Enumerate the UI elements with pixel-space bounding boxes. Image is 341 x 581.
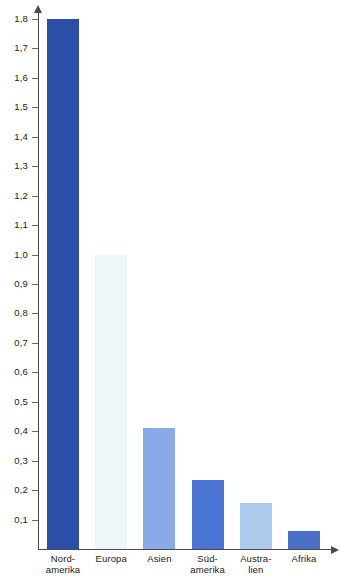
bar-australien [240, 503, 272, 549]
y-axis-line [38, 11, 39, 550]
y-axis-tick-label: 1,4 [0, 132, 28, 142]
x-axis-label-line1: Nord- [51, 553, 75, 564]
y-axis-tick-label: 0,3 [0, 456, 28, 466]
y-axis-tick-label: 1,6 [0, 73, 28, 83]
bar-chart: 1,81,71,61,51,41,31,21,11,00,90,80,70,60… [0, 0, 341, 581]
x-axis-label-line1: Austra- [240, 553, 271, 564]
bar-südamerika [192, 480, 224, 549]
y-axis-tick-label: 0,4 [0, 426, 28, 436]
y-axis-tick-label: 1,0 [0, 250, 28, 260]
y-axis-tick-label: 0,1 [0, 515, 28, 525]
y-axis-tick-label: 0,7 [0, 338, 28, 348]
bar-asien [143, 428, 175, 549]
y-axis-tick-label: 1,8 [0, 14, 28, 24]
x-axis-label-line1: Afrika [292, 553, 317, 564]
x-axis-line [38, 549, 333, 550]
y-axis-tick-label: 0,2 [0, 485, 28, 495]
y-axis-tick-label: 1,2 [0, 191, 28, 201]
x-axis-label-afrika: Afrika [274, 553, 334, 564]
bar-europa [95, 255, 127, 549]
y-axis-tick-label: 0,8 [0, 308, 28, 318]
bar-afrika [288, 531, 320, 549]
y-axis-tick-label: 1,3 [0, 161, 28, 171]
x-axis-label-line2: lien [226, 564, 286, 575]
y-axis-tick-label: 0,6 [0, 367, 28, 377]
x-axis-label-line1: Süd- [197, 553, 217, 564]
x-axis-label-line1: Asien [147, 553, 171, 564]
y-axis-tick-label: 1,7 [0, 43, 28, 53]
x-axis-label-line2: amerika [33, 564, 93, 575]
chart-title [4, 0, 204, 3]
y-axis-tick-label: 0,9 [0, 279, 28, 289]
bar-nordamerika [47, 19, 79, 549]
y-axis-arrow-icon [34, 5, 42, 13]
y-axis-tick-label: 1,1 [0, 220, 28, 230]
y-axis-tick-label: 1,5 [0, 102, 28, 112]
y-axis-tick-label: 0,5 [0, 397, 28, 407]
x-axis-label-line1: Europa [96, 553, 127, 564]
